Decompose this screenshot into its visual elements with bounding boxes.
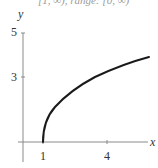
- y-tick-label-5: 5: [11, 25, 17, 39]
- x-tick-label-1: 1: [40, 149, 46, 163]
- y-tick-label-3: 3: [11, 70, 17, 84]
- plot: y 5 3 1 4 x: [0, 0, 158, 168]
- y-axis-label: y: [17, 7, 24, 21]
- curve-sqrt: [43, 57, 149, 142]
- x-axis-label: x: [149, 135, 156, 149]
- x-tick-label-4: 4: [104, 149, 110, 163]
